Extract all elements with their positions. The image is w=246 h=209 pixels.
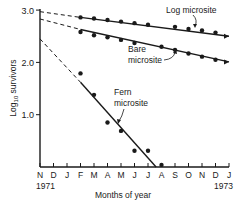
arrowhead-icon — [224, 59, 229, 64]
x-year-end: 1973 — [214, 181, 233, 191]
fit-line-extrapolated — [40, 12, 81, 18]
data-point — [105, 120, 109, 124]
y-tick-label: 2.0 — [21, 58, 34, 68]
x-tick-label: J — [146, 170, 150, 180]
x-tick-label: O — [185, 170, 192, 180]
data-point — [105, 18, 109, 22]
label-fern-line1: Fern — [114, 87, 132, 97]
x-tick-label: M — [117, 170, 124, 180]
label-log-microsite: Log microsite — [166, 5, 217, 15]
data-point — [186, 27, 190, 31]
x-tick-label: M — [90, 170, 97, 180]
x-tick-label: D — [50, 170, 56, 180]
data-point — [159, 163, 163, 167]
data-point — [186, 51, 190, 55]
data-point — [146, 23, 150, 27]
data-point — [92, 93, 96, 97]
x-tick-label: N — [199, 170, 205, 180]
series-log-microsite — [40, 12, 229, 39]
label-fern-line2: microsite — [114, 98, 148, 108]
y-tick-label: 1.0 — [21, 110, 34, 120]
leader-arrow-icon — [193, 24, 197, 28]
x-tick-label: A — [105, 170, 111, 180]
label-bare-line1: Bare — [128, 44, 146, 54]
label-bare-line2: microsite — [128, 55, 162, 65]
data-point — [132, 21, 136, 25]
data-point — [119, 129, 123, 133]
y-axis-title: Log10 survivors — [8, 59, 19, 116]
x-tick-label: A — [159, 170, 165, 180]
fit-line — [81, 17, 230, 36]
x-axis-title: Months of year — [95, 190, 151, 200]
data-point — [200, 54, 204, 58]
series-layer — [40, 12, 229, 167]
x-tick-label: N — [37, 170, 43, 180]
data-point — [119, 19, 123, 23]
data-point — [159, 45, 163, 49]
data-point — [132, 149, 136, 153]
data-point — [78, 71, 82, 75]
arrowhead-icon — [224, 34, 229, 39]
data-point — [78, 15, 82, 19]
data-point — [146, 149, 150, 153]
leader-fern — [119, 109, 124, 121]
fit-line-extrapolated — [40, 39, 81, 82]
data-point — [213, 58, 217, 62]
data-point — [119, 38, 123, 42]
x-tick-label: J — [132, 170, 136, 180]
x-tick-label: J — [227, 170, 231, 180]
data-point — [92, 16, 96, 20]
labels-layer: Log micrositeBaremicrositeFernmicrosite — [114, 5, 217, 124]
x-tick-label: S — [172, 170, 178, 180]
y-tick-label: 3.0 — [21, 6, 34, 16]
data-point — [200, 28, 204, 32]
survival-chart: 1.02.03.0NDJFMAMJJASONDJ19711973Months o… — [0, 0, 246, 209]
x-year-start: 1971 — [36, 181, 55, 191]
x-tick-label: D — [212, 170, 218, 180]
x-tick-label: J — [65, 170, 69, 180]
data-point — [213, 30, 217, 34]
leader-bare — [164, 52, 175, 60]
data-point — [92, 33, 96, 37]
data-point — [105, 35, 109, 39]
fit-line-extrapolated — [40, 19, 81, 29]
x-tick-label: F — [78, 170, 83, 180]
data-point — [173, 25, 177, 29]
data-point — [78, 30, 82, 34]
